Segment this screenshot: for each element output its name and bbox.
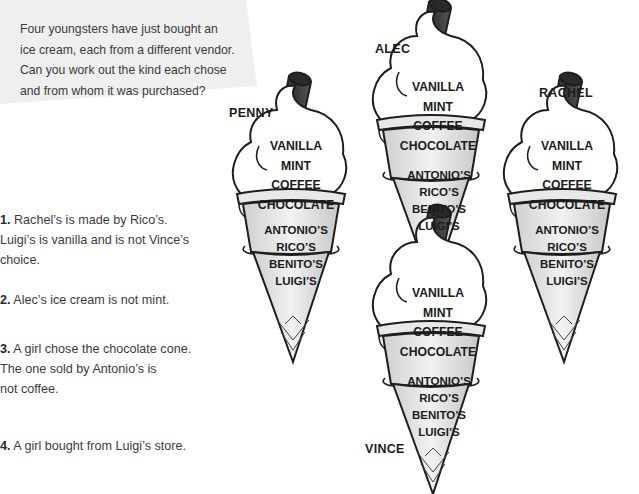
cone-label-rachel: RACHEL xyxy=(539,86,593,100)
flavour-option: CHOCOLATE xyxy=(512,196,622,216)
vendor-option: RICO’S xyxy=(389,184,489,201)
cone-label-vince: VINCE xyxy=(365,442,405,456)
vendor-option: LUIGI’S xyxy=(389,424,489,441)
vendor-option: BENITO’S xyxy=(389,201,489,218)
cone-rachel xyxy=(504,70,617,362)
vendor-options-vince: ANTONIO’S RICO’S BENITO’S LUIGI’S xyxy=(389,373,489,441)
vendor-option: ANTONIO’S xyxy=(389,167,489,184)
vendor-option: BENITO’S xyxy=(389,407,489,424)
flavour-option: CHOCOLATE xyxy=(383,343,493,363)
flavour-option: VANILLA xyxy=(383,78,493,98)
flavour-options-rachel: VANILLA MINT COFFEE CHOCOLATE xyxy=(512,137,622,215)
flavour-options-vince: VANILLA MINT COFFEE CHOCOLATE xyxy=(383,284,493,362)
flavour-options-penny: VANILLA MINT COFFEE CHOCOLATE xyxy=(241,137,351,215)
flavour-option: COFFEE xyxy=(512,176,622,196)
vendor-option: ANTONIO’S xyxy=(517,222,617,239)
flavour-option: CHOCOLATE xyxy=(241,196,351,216)
flavour-option: COFFEE xyxy=(241,176,351,196)
vendor-option: RICO’S xyxy=(517,239,617,256)
vendor-option: RICO’S xyxy=(389,390,489,407)
vendor-options-penny: ANTONIO’S RICO’S BENITO’S LUIGI’S xyxy=(246,222,346,290)
vendor-option: LUIGI’S xyxy=(389,218,489,235)
cone-label-penny: PENNY xyxy=(229,106,274,120)
flavour-option: MINT xyxy=(512,157,622,177)
flavour-option: COFFEE xyxy=(383,117,493,137)
flavour-option: MINT xyxy=(241,157,351,177)
vendor-option: LUIGI’S xyxy=(246,273,346,290)
vendor-option: LUIGI’S xyxy=(517,273,617,290)
vendor-options-rachel: ANTONIO’S RICO’S BENITO’S LUIGI’S xyxy=(517,222,617,290)
vendor-option: ANTONIO’S xyxy=(246,222,346,239)
vendor-option: BENITO’S xyxy=(246,256,346,273)
flavour-option: CHOCOLATE xyxy=(383,137,493,157)
flavour-option: VANILLA xyxy=(512,137,622,157)
flavour-option: MINT xyxy=(383,98,493,118)
flavour-option: MINT xyxy=(383,304,493,324)
flavour-option: VANILLA xyxy=(241,137,351,157)
vendor-option: BENITO’S xyxy=(517,256,617,273)
cone-label-alec: ALEC xyxy=(375,42,410,56)
vendor-option: RICO’S xyxy=(246,239,346,256)
vendor-options-alec: ANTONIO’S RICO’S BENITO’S LUIGI’S xyxy=(389,167,489,235)
flavour-options-alec: VANILLA MINT COFFEE CHOCOLATE xyxy=(383,78,493,156)
flavour-option: VANILLA xyxy=(383,284,493,304)
flavour-option: COFFEE xyxy=(383,323,493,343)
vendor-option: ANTONIO’S xyxy=(389,373,489,390)
